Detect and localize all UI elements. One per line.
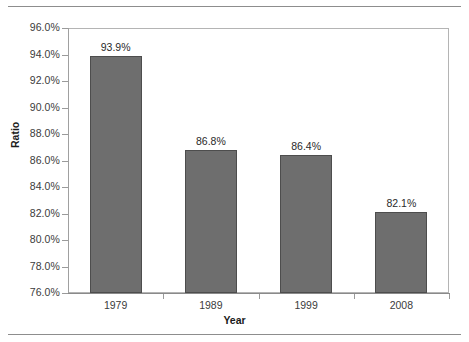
bar-value-label: 93.9% — [86, 41, 146, 53]
y-axis-tick-mark — [62, 214, 68, 215]
bar[interactable] — [375, 212, 427, 293]
bar[interactable] — [90, 56, 142, 293]
bar-value-label: 86.8% — [181, 135, 241, 147]
bar-value-label: 86.4% — [276, 140, 336, 152]
y-axis-tick-mark — [62, 267, 68, 268]
y-axis-tick-mark — [62, 108, 68, 109]
y-axis-tick-label: 80.0% — [2, 233, 60, 245]
y-axis-tick-label: 96.0% — [2, 21, 60, 33]
y-axis-tick-label: 92.0% — [2, 74, 60, 86]
bar[interactable] — [185, 150, 237, 293]
x-axis-tick-label: 1979 — [86, 299, 146, 311]
y-axis-tick-mark — [62, 28, 68, 29]
bar[interactable] — [280, 155, 332, 293]
x-axis-tick-label: 1989 — [181, 299, 241, 311]
x-axis-tick-mark — [163, 294, 164, 299]
x-axis-tick-mark — [449, 294, 450, 299]
bar-chart: 76.0%78.0%80.0%82.0%84.0%86.0%88.0%90.0%… — [0, 0, 469, 342]
y-axis-tick-label: 84.0% — [2, 180, 60, 192]
y-axis-tick-label: 76.0% — [2, 286, 60, 298]
y-axis-tick-label: 82.0% — [2, 207, 60, 219]
y-axis-line — [68, 28, 69, 294]
bar-value-label: 82.1% — [371, 197, 431, 209]
y-axis-tick-mark — [62, 187, 68, 188]
y-axis-tick-mark — [62, 81, 68, 82]
y-axis-tick-label: 86.0% — [2, 154, 60, 166]
y-axis-tick-mark — [62, 240, 68, 241]
y-axis-tick-mark — [62, 134, 68, 135]
y-axis-tick-mark — [62, 55, 68, 56]
x-axis-tick-label: 2008 — [371, 299, 431, 311]
y-axis-tick-label: 94.0% — [2, 48, 60, 60]
y-axis-tick-label: 90.0% — [2, 101, 60, 113]
x-axis-tick-label: 1999 — [276, 299, 336, 311]
y-axis-tick-mark — [62, 161, 68, 162]
x-axis-tick-mark — [259, 294, 260, 299]
x-axis-title: Year — [0, 314, 469, 326]
y-axis-tick-label: 78.0% — [2, 260, 60, 272]
x-axis-tick-mark — [354, 294, 355, 299]
y-axis-title: Ratio — [9, 122, 21, 148]
y-axis-tick-mark — [62, 293, 68, 294]
